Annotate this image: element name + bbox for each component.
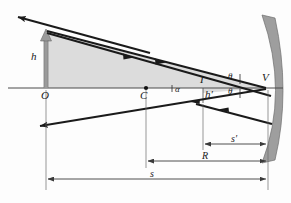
point-label-I: I xyxy=(200,74,204,85)
optics-ray-diagram-figure: h O C I V h′ α θ θ s′ R s xyxy=(0,0,291,203)
angle-alpha-label: α xyxy=(175,85,180,94)
diagram-canvas xyxy=(0,0,291,203)
point-label-C: C xyxy=(140,90,147,101)
image-height-label: h′ xyxy=(205,89,213,100)
dimension-label-image-distance: s′ xyxy=(231,134,237,144)
dimension-label-radius: R xyxy=(202,151,208,161)
point-label-V: V xyxy=(262,72,269,83)
incoming-ray-lower-right xyxy=(196,104,272,124)
angle-theta-reflected-label: θ xyxy=(228,87,232,96)
point-label-O: O xyxy=(41,90,49,101)
dimension-label-object-distance: s xyxy=(150,169,154,179)
angle-theta-incident-label: θ xyxy=(228,72,232,81)
object-height-label: h xyxy=(31,51,37,62)
